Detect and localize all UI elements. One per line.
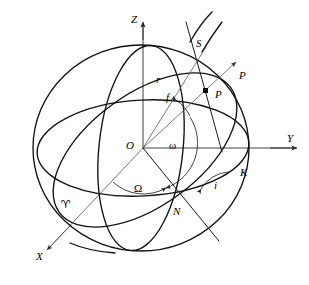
polar-axis-of-orbit [186,22,222,152]
axis-label-y: Y [287,133,293,144]
angle-label-raan: Ω [134,183,142,194]
satellite-point-marker [203,88,208,93]
point-label-orbit-pole: S [196,38,202,49]
angle-label-argument-of-perigee: ω [169,140,176,151]
angle-label-inclination: i [214,180,217,191]
axis-label-z: Z [131,14,137,25]
angle-label-true-anomaly: f [166,92,169,103]
point-label-origin: O [126,140,134,151]
angle-arc-argument-of-perigee [166,117,198,188]
vernal-equinox-icon: ♈ [61,199,71,210]
point-label-ascending-node: N [173,206,180,217]
orbit-diagram-svg [0,0,309,285]
axis-label-x: X [36,251,43,262]
point-label-satellite: P [215,89,222,100]
orbital-elements-figure: Z Y X O P P N S K ♈ f ω Ω i r [0,0,309,285]
segment-label-radius: r [156,74,160,85]
point-label-k: K [240,167,247,178]
point-label-perigee-direction: P [239,70,246,81]
